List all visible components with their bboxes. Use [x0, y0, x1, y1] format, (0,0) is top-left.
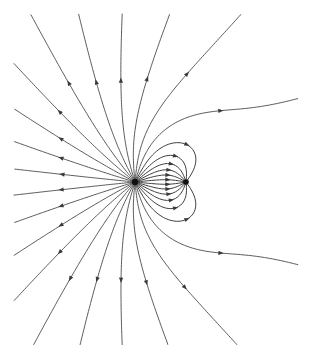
- field-arrow-icon: [59, 172, 65, 177]
- radial-field-line: [121, 184, 134, 345]
- loop-arrow-icon: [165, 182, 170, 186]
- radial-field-line: [14, 64, 133, 181]
- radial-field-line: [135, 15, 241, 180]
- field-arrow-icon: [66, 80, 72, 87]
- radial-field-line: [80, 184, 134, 345]
- radial-field-line: [14, 183, 133, 300]
- dipole-loop-line: [137, 180, 186, 182]
- radial-field-lines: [14, 14, 298, 345]
- loop-arrow-icon: [169, 161, 175, 166]
- figure-root: [0, 0, 312, 359]
- radial-field-line: [136, 184, 298, 265]
- radial-field-line: [121, 14, 135, 180]
- field-arrow-icon: [58, 203, 64, 209]
- loop-arrow-icon: [166, 192, 172, 197]
- loop-arrow-icon: [166, 168, 172, 173]
- loop-arrow-icon: [173, 205, 179, 210]
- loop-arrow-icon: [169, 197, 175, 202]
- positive-charge-dot: [132, 179, 138, 185]
- field-arrow-icon: [93, 79, 98, 85]
- field-arrow-icon: [218, 251, 224, 256]
- field-arrow-icon: [94, 277, 99, 283]
- field-arrow-icon: [144, 280, 150, 286]
- field-line-canvas: [0, 0, 312, 359]
- field-arrow-icon: [58, 187, 64, 192]
- loop-arrow-icon: [165, 173, 171, 177]
- radial-field-line: [135, 184, 237, 345]
- field-arrow-icon: [119, 77, 123, 82]
- field-arrow-icon: [58, 155, 64, 161]
- field-arrow-icon: [57, 135, 64, 141]
- field-arrow-icon: [119, 278, 123, 283]
- field-arrow-icon: [67, 276, 73, 283]
- radial-field-line: [136, 99, 298, 180]
- loop-arrow-icon: [173, 153, 179, 158]
- field-arrow-icon: [218, 108, 224, 113]
- dipole-loop-line: [137, 182, 186, 184]
- loop-arrow-icon: [165, 178, 170, 182]
- radial-field-line: [15, 109, 134, 181]
- field-arrow-icon: [144, 75, 150, 81]
- loop-arrow-icon: [165, 187, 171, 191]
- field-arrow-icon: [57, 222, 64, 228]
- radial-field-line: [14, 183, 133, 255]
- negative-charge-dot: [183, 179, 189, 185]
